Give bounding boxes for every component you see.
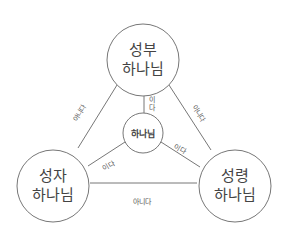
node-son: 성자 하나님 xyxy=(17,150,89,222)
node-father: 성부 하나님 xyxy=(107,24,179,96)
node-spirit: 성령 하나님 xyxy=(199,150,271,222)
son-line1: 성자 xyxy=(39,167,67,186)
node-god: 하나님 xyxy=(123,113,163,153)
spirit-line2: 하나님 xyxy=(214,186,256,205)
edge-label-father-god: 이다 xyxy=(149,96,157,112)
father-line2: 하나님 xyxy=(122,60,164,79)
god-label: 하나님 xyxy=(131,127,155,140)
spirit-line1: 성령 xyxy=(221,167,249,186)
edge-label-son-spirit: 아니다 xyxy=(133,196,151,206)
son-line2: 하나님 xyxy=(32,186,74,205)
father-line1: 성부 xyxy=(129,41,157,60)
